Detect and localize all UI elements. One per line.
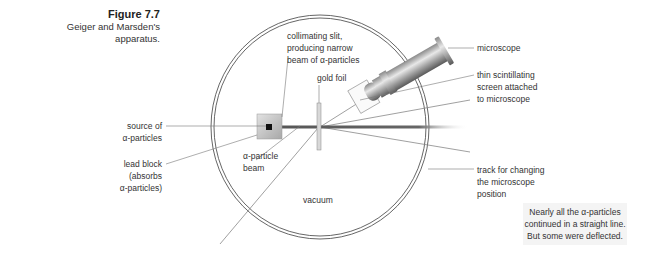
- backscatter-ray: [220, 128, 318, 244]
- note-line: But some were deflected.: [523, 230, 627, 242]
- label-line: source of: [100, 120, 162, 132]
- label-line: α-particles): [100, 182, 162, 194]
- label-line: thin scintillating: [477, 69, 537, 81]
- label-line: α-particle: [243, 150, 278, 162]
- label-line: α-particles: [100, 132, 162, 144]
- note-line: continued in a straight line.: [523, 218, 627, 230]
- label-line: screen attached: [477, 81, 537, 93]
- microscope: [347, 36, 454, 116]
- note-line: Nearly all the α-particles: [523, 206, 627, 218]
- label-scintillating-screen: thin scintillating screen attached to mi…: [477, 69, 537, 105]
- label-vacuum: vacuum: [303, 194, 333, 206]
- observation-note: Nearly all the α-particles continued in …: [523, 203, 627, 245]
- label-alpha-beam: α-particle beam: [243, 150, 278, 174]
- label-gold-foil: gold foil: [317, 72, 346, 84]
- label-collimating-slit: collimating slit, producing narrow beam …: [287, 30, 359, 66]
- label-line: beam of α-particles: [287, 54, 359, 66]
- alpha-source: [266, 124, 272, 130]
- label-track: track for changing the microscope positi…: [477, 164, 545, 200]
- label-lead-block: lead block (absorbs α-particles): [100, 158, 162, 194]
- label-line: beam: [243, 162, 278, 174]
- label-source: source of α-particles: [100, 120, 162, 144]
- label-line: collimating slit,: [287, 30, 359, 42]
- label-line: the microscope: [477, 176, 545, 188]
- label-line: position: [477, 188, 545, 200]
- gold-foil: [317, 103, 321, 150]
- label-line: track for changing: [477, 164, 545, 176]
- label-line: to microscope: [477, 93, 537, 105]
- label-microscope: microscope: [477, 42, 520, 54]
- label-line: (absorbs: [100, 170, 162, 182]
- label-line: producing narrow: [287, 42, 359, 54]
- label-line: lead block: [100, 158, 162, 170]
